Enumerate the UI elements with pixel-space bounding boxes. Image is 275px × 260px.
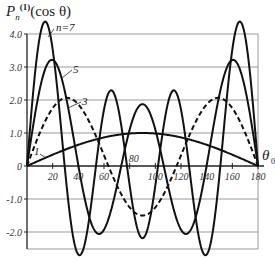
x-tick-label: 60 bbox=[99, 171, 109, 182]
x-tick-label: 180 bbox=[251, 171, 266, 182]
y-tick-label: 2.0 bbox=[10, 95, 23, 106]
legendre-chart: 4.03.02.01.00-1.0-2.02040608010012014016… bbox=[0, 0, 275, 260]
curve-n5 bbox=[27, 60, 258, 234]
x-tick-label: 120 bbox=[174, 171, 189, 182]
x-tick-label: 40 bbox=[73, 171, 83, 182]
y-tick-label: -2.0 bbox=[6, 227, 22, 238]
y-tick-label: 1.0 bbox=[10, 128, 23, 139]
labels: 4.03.02.01.00-1.0-2.02040608010012014016… bbox=[6, 21, 275, 238]
series-label: 5 bbox=[73, 63, 79, 75]
series-label: 3 bbox=[81, 95, 88, 107]
curve-n3 bbox=[27, 98, 258, 216]
y-tick-label: 0 bbox=[17, 161, 22, 172]
x-tick-label: 140 bbox=[199, 171, 214, 182]
y-tick-label: 4.0 bbox=[10, 29, 23, 40]
x-tick-label: 100 bbox=[148, 171, 163, 182]
curve-n7 bbox=[27, 22, 258, 256]
svg-text:0: 0 bbox=[271, 157, 275, 166]
x-axis-label: θ bbox=[262, 147, 270, 163]
x-tick-label: 80 bbox=[129, 153, 139, 164]
y-tick-label: -1.0 bbox=[6, 194, 22, 205]
y-tick-label: 3.0 bbox=[9, 62, 23, 73]
curves bbox=[27, 22, 258, 256]
x-tick-label: 160 bbox=[225, 171, 240, 182]
x-tick-label: 20 bbox=[48, 171, 58, 182]
series-label: n=7 bbox=[56, 21, 75, 33]
series-label: 1 bbox=[34, 145, 40, 157]
